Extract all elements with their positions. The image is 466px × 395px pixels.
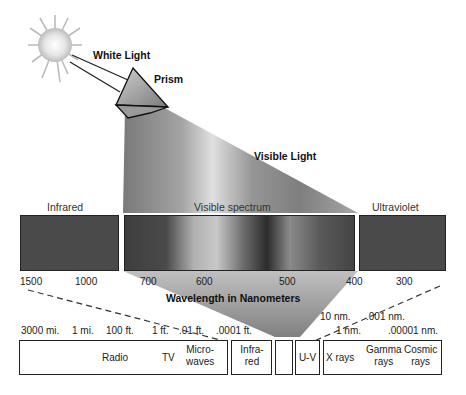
tick-0001ft: .0001 ft.: [216, 325, 252, 336]
visible-slot-box: [275, 340, 293, 375]
ultraviolet-header: Ultraviolet: [372, 201, 419, 213]
tick-1ft: 1 ft.: [152, 325, 169, 336]
infrared-box: Infra- red: [231, 340, 272, 375]
infrared-header: Infrared: [47, 201, 83, 213]
cosmic-label: Cosmic rays: [404, 344, 437, 368]
xrays-label: X rays: [326, 352, 354, 364]
infrared-label: Infra- red: [238, 344, 266, 368]
tick-1nm: 1 nm.: [336, 325, 361, 336]
sun-icon: [28, 15, 82, 82]
tick-600: 600: [196, 276, 213, 287]
visible-light-label: Visible Light: [254, 150, 316, 162]
uv-box: U-V: [295, 340, 320, 375]
tick-3000mi: 3000 mi.: [21, 325, 59, 336]
xray-gamma-cosmic-box: X rays Gamma rays Cosmic rays: [323, 340, 442, 375]
tick-10nm: 10 nm.: [320, 311, 351, 322]
radio-label: Radio: [102, 352, 128, 364]
radio-tv-micro-box: Radio TV Micro- waves: [19, 340, 228, 375]
ultraviolet-band: [359, 215, 446, 271]
visible-spectrum-header: Visible spectrum: [194, 201, 271, 213]
uv-label: U-V: [297, 352, 318, 364]
tick-01ft: .01 ft.: [179, 325, 204, 336]
tick-300: 300: [396, 276, 413, 287]
tick-400: 400: [346, 276, 363, 287]
visible-spectrum-band: [124, 215, 355, 271]
infrared-band: [20, 215, 119, 271]
tick-500: 500: [279, 276, 296, 287]
tick-700: 700: [140, 276, 157, 287]
tick-00001nm: .00001 nm.: [388, 325, 438, 336]
tv-label: TV: [162, 352, 175, 364]
gamma-label: Gamma rays: [366, 344, 402, 368]
tick-1mi: 1 mi.: [72, 325, 94, 336]
wavelength-axis-label: Wavelength in Nanometers: [166, 292, 300, 304]
tick-001nm: .001 nm.: [366, 311, 405, 322]
tick-100ft: 100 ft.: [106, 325, 134, 336]
tick-1500: 1500: [20, 276, 42, 287]
tick-1000: 1000: [75, 276, 97, 287]
microwaves-label: Micro- waves: [186, 344, 214, 368]
white-light-label: White Light: [93, 49, 150, 61]
prism-label: Prism: [154, 73, 183, 85]
